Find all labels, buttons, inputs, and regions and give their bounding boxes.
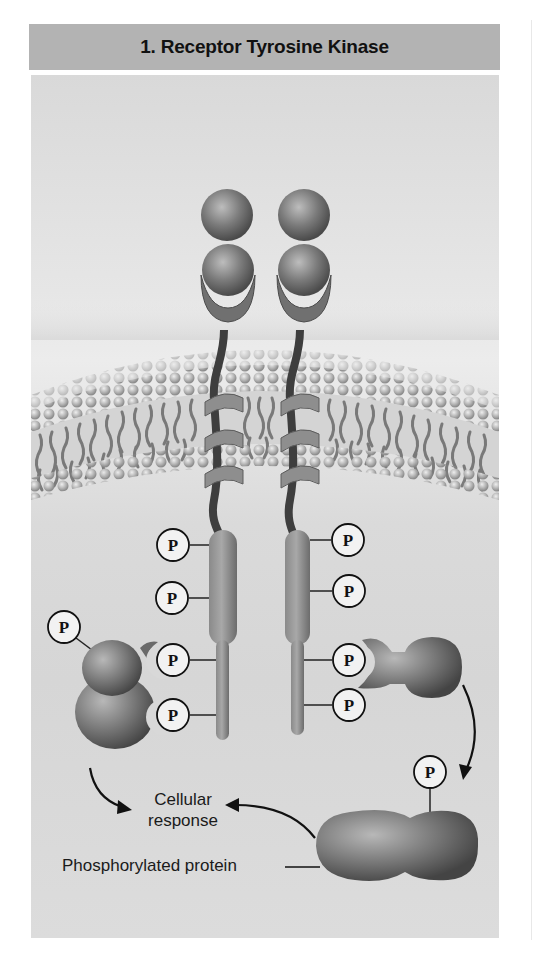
phosphate-symbol: P [344, 651, 354, 670]
cell-membrane [31, 300, 499, 500]
illustration: PPPPPPPPPP [0, 0, 533, 957]
ligand-sphere [278, 244, 330, 296]
phosphate-symbol: P [344, 582, 354, 601]
arrow-to-phosphorylation [463, 685, 475, 770]
phosphorylated-protein-shape [316, 810, 478, 881]
phosphate-group-receptor-left-1: P [157, 529, 189, 561]
phosphate-symbol: P [425, 763, 435, 782]
cellular-response-label: Cellular response [143, 789, 223, 831]
phosphate-symbol: P [168, 651, 178, 670]
phosphate-symbol: P [59, 618, 69, 637]
phosphate-group-receptor-left-3: P [157, 644, 189, 676]
ligand-sphere [201, 189, 253, 241]
cellular-response-line2: response [143, 810, 223, 831]
phosphate-group-receptor-left-4: P [157, 699, 189, 731]
cellular-response-line1: Cellular [143, 789, 223, 810]
arrow-to-cellular-response-left [90, 768, 122, 807]
ligand-sphere [202, 244, 254, 296]
arrow-to-cellular-response-right [235, 805, 315, 838]
ligand-sphere [278, 189, 330, 241]
phosphate-group-receptor-left-2: P [156, 582, 188, 614]
phosphate-symbol: P [343, 531, 353, 550]
phosphate-group-phosphorylated-protein: P [414, 756, 446, 788]
phosphate-group-receptor-right-1: P [332, 524, 364, 556]
phosphate-group-receptor-right-3: P [333, 644, 365, 676]
phosphate-symbol: P [167, 589, 177, 608]
phosphate-symbol: P [344, 696, 354, 715]
phosphorylated-protein-label: Phosphorylated protein [62, 855, 237, 876]
phosphate-group-receptor-right-4: P [333, 689, 365, 721]
receptor-tyrosine-kinase-figure: 1. Receptor Tyrosine Kinase [0, 0, 533, 957]
phosphate-group-receptor-right-2: P [333, 575, 365, 607]
phosphate-symbol: P [168, 536, 178, 555]
phosphate-symbol: P [168, 706, 178, 725]
phosphate-group-relay-protein-left: P [48, 611, 80, 643]
